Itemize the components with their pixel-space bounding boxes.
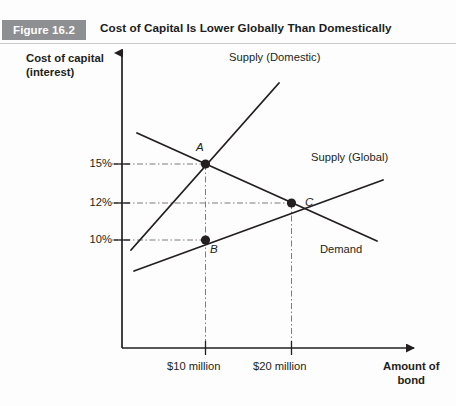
x-axis-title: Amount of bond [383,360,439,387]
y-tick-label-15: 15% [78,157,112,169]
point-label-c: C [305,196,313,208]
y-axis-title-line1: Cost of capital [26,52,104,64]
x-tick-label-10-million: $10 million [167,360,220,372]
guide-lines-vertical [206,164,292,352]
y-tick-label-10: 10% [78,233,112,245]
point-label-a: A [196,141,204,153]
point-label-b: B [210,243,218,255]
curve-demand [137,133,377,241]
curve-supply-global [134,180,383,271]
x-axis-title-line2: bond [397,374,425,386]
curve-label-supply-global: Supply (Global) [311,151,388,163]
y-axis-title: Cost of capital (interest) [26,52,104,79]
guide-lines-horizontal [112,164,292,240]
point-b-marker [201,235,210,244]
point-a-marker [201,159,210,168]
curve-label-supply-domestic: Supply (Domestic) [229,51,320,63]
figure-container: Figure 16.2 Cost of Capital Is Lower Glo… [0,0,456,406]
y-tick-label-12: 12% [78,196,112,208]
point-c-marker [287,198,296,207]
x-tick-label-20-million: $20 million [253,360,306,372]
curve-label-demand: Demand [320,243,362,255]
y-axis-title-line2: (interest) [26,66,74,78]
x-axis-title-line1: Amount of [383,360,439,372]
